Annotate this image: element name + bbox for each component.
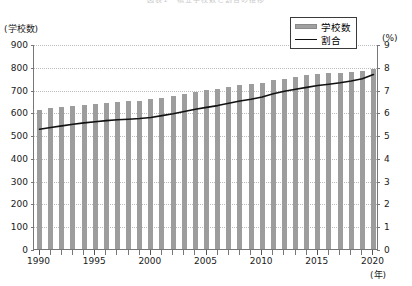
x-tick — [372, 250, 373, 255]
plot-area — [33, 45, 378, 250]
y-axis-left-ticklabel: 500 — [0, 132, 28, 141]
x-axis-ticklabel: 2000 — [138, 256, 161, 266]
x-tick — [339, 250, 340, 255]
legend-label-schools: 学校数 — [321, 20, 351, 34]
x-tick — [206, 250, 207, 255]
x-tick — [161, 250, 162, 255]
legend-item-schools: 学校数 — [295, 20, 351, 33]
y-axis-right-ticklabel: 7 — [384, 87, 400, 96]
y-axis-right-ticklabel: 2 — [384, 200, 400, 209]
x-axis-ticklabel: 1995 — [83, 256, 106, 266]
x-tick — [194, 250, 195, 255]
x-tick — [128, 250, 129, 255]
x-tick — [139, 250, 140, 255]
y-axis-left-unit-label: (学校数) — [4, 22, 38, 35]
y-axis-left-ticklabel: 100 — [0, 223, 28, 232]
x-tick — [105, 250, 106, 255]
x-tick — [61, 250, 62, 255]
y-axis-left-ticklabel: 600 — [0, 109, 28, 118]
y-axis-left-ticklabel: 700 — [0, 87, 28, 96]
y-axis-left-ticklabel: 300 — [0, 178, 28, 187]
ratio-polyline — [40, 75, 374, 130]
x-tick — [83, 250, 84, 255]
legend-item-ratio: 割合 — [295, 33, 351, 46]
y-axis-right-ticklabel: 6 — [384, 109, 400, 118]
chart-title: 図表1 私立学校数と割合の推移 — [0, 0, 412, 4]
y-axis-right-ticklabel: 3 — [384, 178, 400, 187]
y-axis-right-ticklabel: 1 — [384, 223, 400, 232]
y-axis-right-ticklabel: 9 — [384, 41, 400, 50]
x-tick — [350, 250, 351, 255]
x-tick — [328, 250, 329, 255]
x-tick — [239, 250, 240, 255]
x-tick — [361, 250, 362, 255]
x-tick — [283, 250, 284, 255]
x-tick — [94, 250, 95, 255]
x-axis-ticklabel: 2015 — [305, 256, 328, 266]
x-tick — [295, 250, 296, 255]
x-axis-ticklabel: 2020 — [361, 256, 384, 266]
y-axis-left-ticklabel: 900 — [0, 41, 28, 50]
x-tick — [306, 250, 307, 255]
bar-swatch-icon — [295, 24, 317, 29]
x-axis-ticklabels: 1990199520002005201020152020 — [0, 256, 412, 270]
x-tick — [261, 250, 262, 255]
y-axis-right-ticklabel: 8 — [384, 64, 400, 73]
x-tick — [317, 250, 318, 255]
y-axis-right-ticklabel: 0 — [384, 246, 400, 255]
y-axis-left-ticklabel: 400 — [0, 155, 28, 164]
x-tick — [272, 250, 273, 255]
x-tick — [39, 250, 40, 255]
line-series — [34, 45, 379, 250]
y-axis-left-ticklabel: 800 — [0, 64, 28, 73]
x-tick — [172, 250, 173, 255]
x-tick — [116, 250, 117, 255]
line-swatch-icon — [295, 39, 317, 40]
x-tick — [72, 250, 73, 255]
x-axis-ticklabel: 2005 — [194, 256, 217, 266]
x-tick — [183, 250, 184, 255]
y-axis-right-ticklabel: 5 — [384, 132, 400, 141]
x-tick — [50, 250, 51, 255]
x-tick — [217, 250, 218, 255]
x-axis-ticklabel: 1990 — [27, 256, 50, 266]
legend-label-ratio: 割合 — [321, 33, 341, 47]
x-axis-ticklabel: 2010 — [250, 256, 273, 266]
chart-figure: 図表1 私立学校数と割合の推移 (学校数) (%) (年) 学校数 割合 010… — [0, 0, 412, 286]
y-axis-left-ticklabel: 0 — [0, 246, 28, 255]
chart-legend: 学校数 割合 — [290, 17, 357, 49]
x-tick — [228, 250, 229, 255]
y-axis-left-ticklabel: 200 — [0, 200, 28, 209]
y-axis-right-ticklabel: 4 — [384, 155, 400, 164]
x-tick — [150, 250, 151, 255]
x-tick — [250, 250, 251, 255]
